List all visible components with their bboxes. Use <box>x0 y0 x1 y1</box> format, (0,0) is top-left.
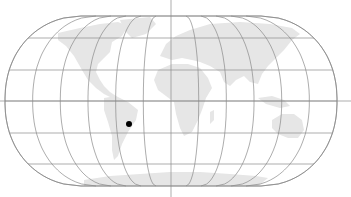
land-antarctica <box>84 172 268 186</box>
landmasses <box>58 17 304 186</box>
world-map <box>0 0 351 197</box>
land-southeast-asia <box>258 96 290 108</box>
land-africa <box>154 64 212 136</box>
land-south-america <box>104 96 138 160</box>
land-australia <box>272 114 304 138</box>
location-marker-dot[interactable] <box>126 121 132 127</box>
land-north-america <box>58 22 128 98</box>
land-madagascar <box>210 110 214 124</box>
land-greenland <box>120 17 156 38</box>
